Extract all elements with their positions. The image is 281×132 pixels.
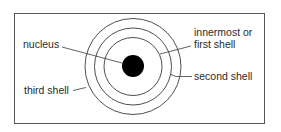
atom-shell-diagram: nucleus innermost or first shell second … bbox=[0, 0, 281, 132]
nucleus-label: nucleus bbox=[23, 38, 59, 50]
third-shell-leader-line bbox=[73, 88, 86, 91]
first-shell-label-line1: innermost or bbox=[194, 26, 253, 38]
third-shell-label: third shell bbox=[24, 84, 69, 96]
nucleus-leader-line bbox=[62, 47, 122, 63]
second-shell-leader-line bbox=[171, 75, 192, 77]
second-shell-label: second shell bbox=[194, 70, 252, 82]
first-shell-label-line2: first shell bbox=[194, 38, 235, 50]
nucleus-dot bbox=[122, 55, 144, 77]
first-shell-leader-line bbox=[160, 46, 191, 54]
